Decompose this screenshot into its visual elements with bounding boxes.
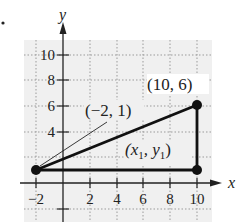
y-axis-arrow-icon <box>60 22 67 34</box>
y-tick-label: 10 <box>40 47 55 63</box>
x-tick-label: 4 <box>113 191 121 207</box>
item-bullet <box>1 21 4 24</box>
point-x1-y1 <box>192 165 202 175</box>
x-tick-label: 2 <box>86 191 94 207</box>
x-tick-label: 10 <box>190 191 205 207</box>
x-axis-arrow-icon <box>210 180 222 187</box>
x-tick-label: −2 <box>28 191 44 207</box>
point-10-6 <box>192 100 202 110</box>
point-neg2-1 <box>31 165 41 175</box>
x-tick-label: 6 <box>139 191 147 207</box>
coordinate-diagram: −2 2 4 6 8 10 10 8 6 4 x y (−2, 1) (10, … <box>0 0 247 222</box>
point-label-neg2-1: (−2, 1) <box>85 101 131 120</box>
y-tick-label: 4 <box>48 124 56 140</box>
y-axis-label: y <box>57 6 67 24</box>
x-axis-label: x <box>227 174 235 191</box>
point-label-10-6: (10, 6) <box>147 75 192 94</box>
x-tick-label: 8 <box>166 191 174 207</box>
y-tick-label: 6 <box>48 98 56 114</box>
y-tick-label: 8 <box>48 72 56 88</box>
